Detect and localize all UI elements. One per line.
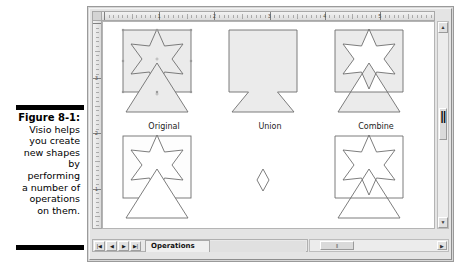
- ruler-tick: [96, 152, 99, 153]
- ruler-tick: [118, 15, 119, 18]
- ruler-tick: [96, 115, 99, 116]
- shape-cell-intersect[interactable]: Intersect: [215, 132, 325, 229]
- ruler-tick: [408, 14, 409, 19]
- horizontal-ruler[interactable]: 12345: [102, 11, 435, 21]
- figure-caption: Figure 8-1: Visio helps you create new s…: [0, 112, 80, 216]
- ruler-tick: [96, 32, 99, 33]
- ruler-tick: [187, 14, 188, 19]
- ruler-tick: [385, 15, 386, 18]
- ruler-tick: [293, 15, 294, 18]
- scroll-right-icon[interactable]: ▶: [437, 241, 447, 250]
- ruler-tick: [96, 202, 99, 203]
- ruler-tick: [320, 15, 321, 18]
- previous-page-icon[interactable]: ◀: [106, 241, 117, 251]
- ruler-corner-box[interactable]: [92, 11, 102, 21]
- shape-cell-label: Fragment: [109, 228, 219, 229]
- first-page-icon[interactable]: |◀: [94, 241, 105, 251]
- next-page-icon[interactable]: ▶: [118, 241, 129, 251]
- ruler-tick: [145, 15, 146, 18]
- ruler-tick: [334, 15, 335, 18]
- ruler-tick: [96, 120, 99, 121]
- horizontal-scrollbar[interactable]: ‖ ▶: [309, 239, 449, 252]
- ruler-tick: [96, 97, 99, 98]
- ruler-tick: [178, 15, 179, 18]
- fragment-shape-icon[interactable]: [109, 132, 219, 228]
- ruler-tick: [96, 179, 99, 180]
- ruler-tick: [109, 15, 110, 18]
- ruler-tick: [95, 161, 100, 162]
- ruler-tick: [95, 106, 100, 107]
- ruler-tick: [127, 15, 128, 18]
- scroll-up-icon[interactable]: ▲: [438, 22, 448, 33]
- ruler-tick: [136, 15, 137, 18]
- ruler-tick: [196, 15, 197, 18]
- shape-cell-combine[interactable]: Combine: [321, 26, 431, 132]
- ruler-tick: [96, 221, 99, 222]
- page-tab-operations[interactable]: Operations: [145, 240, 210, 252]
- shape-cell-label: Combine: [321, 122, 431, 131]
- caption-line: operations: [0, 193, 80, 205]
- ruler-tick: [168, 15, 169, 18]
- shape-cell-fragment[interactable]: Fragment: [109, 132, 219, 229]
- ruler-tick: [96, 87, 99, 88]
- scroll-down-icon[interactable]: ▼: [438, 217, 448, 228]
- visio-drawing-window: 12345 321 OriginalUnionCombineFragmentIn…: [87, 6, 454, 262]
- shape-cell-union[interactable]: Union: [215, 26, 325, 132]
- ruler-tick: [247, 15, 248, 18]
- horizontal-scroll-thumb[interactable]: ‖: [320, 241, 354, 250]
- shape-cell-subtract[interactable]: Subtract: [321, 132, 431, 229]
- original-shape-icon[interactable]: [109, 26, 219, 122]
- ruler-tick: [132, 14, 133, 19]
- ruler-tick: [96, 124, 99, 125]
- caption-rule-top: [16, 105, 84, 110]
- ruler-tick: [339, 15, 340, 18]
- shape-cell-label: Union: [215, 122, 325, 131]
- union-shape-icon[interactable]: [215, 26, 325, 122]
- ruler-number: 2: [213, 13, 216, 19]
- ruler-tick: [122, 15, 123, 18]
- vertical-scrollbar[interactable]: ▲ ‖ ▼: [437, 21, 449, 229]
- ruler-tick: [426, 15, 427, 18]
- ruler-tick: [95, 51, 100, 52]
- shape-cell-label: Intersect: [215, 228, 325, 229]
- vertical-scroll-thumb[interactable]: ‖: [439, 108, 447, 140]
- combine-shape-icon[interactable]: [321, 26, 431, 122]
- subtract-shape-icon[interactable]: [321, 132, 431, 228]
- ruler-tick: [96, 207, 99, 208]
- ruler-tick: [237, 15, 238, 18]
- ruler-number: 1: [95, 186, 98, 192]
- ruler-tick: [306, 15, 307, 18]
- tab-strip-filler: [205, 241, 306, 252]
- ruler-tick: [398, 15, 399, 18]
- shape-cell-label: Original: [109, 122, 219, 131]
- ruler-tick: [251, 15, 252, 18]
- ruler-tick: [431, 15, 432, 18]
- ruler-tick: [265, 15, 266, 18]
- ruler-tick: [96, 41, 99, 42]
- ruler-tick: [205, 15, 206, 18]
- ruler-tick: [242, 14, 243, 19]
- ruler-tick: [191, 15, 192, 18]
- ruler-tick: [96, 198, 99, 199]
- ruler-tick: [283, 15, 284, 18]
- caption-line: Visio helps: [0, 124, 80, 136]
- ruler-number: 5: [379, 13, 382, 19]
- drawing-canvas[interactable]: OriginalUnionCombineFragmentIntersectSub…: [102, 21, 435, 229]
- window-client-area: 12345 321 OriginalUnionCombineFragmentIn…: [89, 8, 452, 260]
- ruler-tick: [96, 170, 99, 171]
- figure-caption-column: Figure 8-1: Visio helps you create new s…: [0, 0, 86, 272]
- caption-line: by: [0, 158, 80, 170]
- ruler-tick: [96, 193, 99, 194]
- ruler-tick: [141, 15, 142, 18]
- vertical-ruler[interactable]: 321: [92, 21, 102, 229]
- ruler-tick: [95, 216, 100, 217]
- ruler-tick: [421, 15, 422, 18]
- ruler-tick: [362, 15, 363, 18]
- shape-cell-original[interactable]: Original: [109, 26, 219, 132]
- ruler-tick: [93, 23, 101, 24]
- ruler-number: 2: [95, 130, 98, 136]
- last-page-icon[interactable]: ▶|: [130, 241, 141, 251]
- ruler-tick: [96, 166, 99, 167]
- intersect-shape-icon[interactable]: [215, 132, 325, 228]
- ruler-tick: [96, 37, 99, 38]
